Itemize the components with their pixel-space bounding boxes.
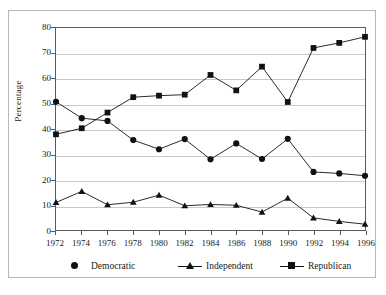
legend-swatch-democratic <box>63 260 87 272</box>
x-tick-mark-1974 <box>81 231 82 235</box>
y-tick-label-0: 0 <box>29 227 51 236</box>
datapoint-democratic-1996 <box>362 173 368 179</box>
series-line-independent <box>56 191 365 224</box>
x-tick-mark-1994 <box>340 231 341 235</box>
datapoint-republican-1988 <box>259 64 265 70</box>
x-tick-mark-1976 <box>107 231 108 235</box>
datapoint-republican-1994 <box>336 40 342 46</box>
legend-marker-wrap <box>71 262 78 269</box>
x-tick-mark-1982 <box>185 231 186 235</box>
legend-label-republican: Republican <box>308 260 351 272</box>
datapoint-democratic-1994 <box>336 170 342 176</box>
legend-marker-circle-icon <box>71 262 78 269</box>
x-tick-mark-1988 <box>262 231 263 235</box>
x-tick-mark-1980 <box>159 231 160 235</box>
legend-marker-wrap <box>186 262 194 269</box>
y-tick-label-70: 70 <box>29 48 51 57</box>
x-tick-mark-1996 <box>366 231 367 235</box>
datapoint-republican-1974 <box>79 125 85 131</box>
datapoint-republican-1972 <box>53 131 59 137</box>
datapoint-independent-1984 <box>207 201 214 207</box>
datapoint-democratic-1972 <box>53 99 59 105</box>
legend-marker-triangle-icon <box>186 262 194 269</box>
y-tick-label-30: 30 <box>29 150 51 159</box>
legend-label-independent: Independent <box>206 260 253 272</box>
datapoint-republican-1996 <box>362 34 368 40</box>
x-tick-mark-1992 <box>314 231 315 235</box>
x-tick-mark-1986 <box>236 231 237 235</box>
datapoint-democratic-1984 <box>207 156 213 162</box>
datapoint-democratic-1982 <box>182 136 188 142</box>
datapoint-democratic-1976 <box>104 118 110 124</box>
series-line-democratic <box>56 102 365 176</box>
datapoint-republican-1992 <box>311 45 317 51</box>
series-plot-svg <box>56 28 365 230</box>
legend-swatch-independent <box>178 260 202 272</box>
y-tick-label-20: 20 <box>29 176 51 185</box>
datapoint-republican-1978 <box>130 94 136 100</box>
datapoint-independent-1974 <box>78 188 85 194</box>
y-tick-label-60: 60 <box>29 74 51 83</box>
chart-legend: DemocraticIndependentRepublican <box>8 258 376 276</box>
datapoint-independent-1992 <box>310 215 317 221</box>
legend-entry-independent[interactable]: Independent <box>178 258 253 274</box>
x-axis-tick-labels: 1972197419761978198019821984198619881990… <box>55 238 366 252</box>
series-republican <box>53 34 368 137</box>
datapoint-republican-1986 <box>233 87 239 93</box>
x-tick-mark-1978 <box>133 231 134 235</box>
x-tick-mark-1990 <box>288 231 289 235</box>
x-tick-mark-1984 <box>211 231 212 235</box>
series-independent <box>53 188 369 227</box>
datapoint-independent-1990 <box>284 195 291 201</box>
datapoint-democratic-1980 <box>156 146 162 152</box>
legend-label-democratic: Democratic <box>91 260 135 272</box>
series-line-republican <box>56 37 365 134</box>
datapoint-democratic-1992 <box>310 169 316 175</box>
datapoint-republican-1984 <box>208 72 214 78</box>
y-tick-label-10: 10 <box>29 201 51 210</box>
x-axis-tick-marks <box>55 231 366 236</box>
datapoint-republican-1980 <box>156 93 162 99</box>
datapoint-republican-1982 <box>182 92 188 98</box>
legend-swatch-republican <box>280 260 304 272</box>
legend-marker-square-icon <box>288 262 295 269</box>
series-democratic <box>53 99 368 179</box>
legend-entry-democratic[interactable]: Democratic <box>63 258 135 274</box>
datapoint-republican-1990 <box>285 99 291 105</box>
chart-figure: Percentage 01020304050607080 19721974197… <box>0 0 386 295</box>
y-tick-label-40: 40 <box>29 125 51 134</box>
datapoint-democratic-1978 <box>130 137 136 143</box>
datapoint-democratic-1986 <box>233 140 239 146</box>
x-tick-label-1996: 1996 <box>349 238 383 248</box>
x-tick-mark-1972 <box>55 231 56 235</box>
datapoint-democratic-1974 <box>79 115 85 121</box>
legend-marker-wrap <box>288 262 295 269</box>
plot-area <box>55 27 366 231</box>
datapoint-independent-1980 <box>156 192 163 198</box>
datapoint-republican-1976 <box>105 110 111 116</box>
datapoint-democratic-1988 <box>259 156 265 162</box>
y-axis-tick-labels: 01020304050607080 <box>27 27 51 231</box>
datapoint-democratic-1990 <box>285 136 291 142</box>
y-tick-label-50: 50 <box>29 99 51 108</box>
y-tick-label-80: 80 <box>29 23 51 32</box>
y-axis-title: Percentage <box>13 61 23 141</box>
legend-entry-republican[interactable]: Republican <box>280 258 351 274</box>
